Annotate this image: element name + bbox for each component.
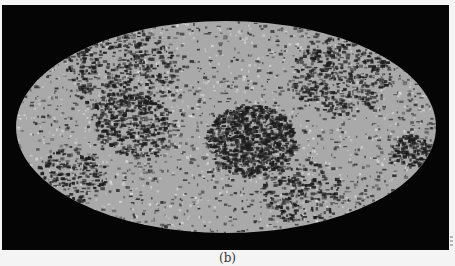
sky-map-mollweide <box>0 0 455 266</box>
figure-caption: (b) <box>0 250 455 266</box>
image-credit-mark <box>450 236 453 248</box>
